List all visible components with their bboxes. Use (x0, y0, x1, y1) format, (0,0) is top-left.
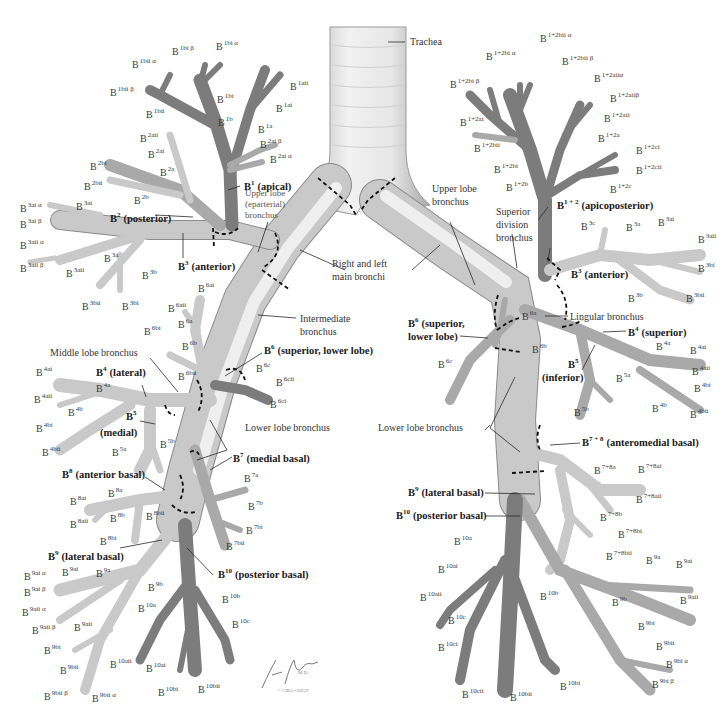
left-basal-branches (440, 450, 690, 690)
right-subsegment-label: B2bii (84, 179, 103, 192)
left-subsegment-label: B1+2bii (474, 141, 500, 154)
right-subsegment-label: B1ai (276, 101, 292, 114)
segment-b3: B3(anterior) (178, 259, 236, 273)
right-subsegment-label: B7b (248, 499, 263, 512)
right-subsegment-label: B2ai (148, 147, 164, 160)
segment-b6-left: B6(superior, (408, 316, 465, 330)
right-subsegment-label: B4aii (34, 392, 52, 405)
right-subsegment-label: B3bii (82, 299, 101, 312)
right-subsegment-label: B8aii (70, 517, 88, 530)
right-subsegment-label: B7bi (246, 523, 263, 536)
left-subsegment-label: B10ci (438, 640, 458, 653)
right-subsegment-label: B8a (108, 486, 123, 499)
left-subsegment-label: B1+2ai (460, 115, 484, 128)
segment-b7: B7(medial basal) (233, 451, 310, 465)
right-subsegment-label: B10a (138, 601, 157, 614)
left-subsegment-label: B3bi (698, 261, 715, 274)
left-subsegment-label: B1+2bii β (562, 54, 594, 67)
right-subsegment-label: B7bii (226, 539, 245, 552)
right-subsegment-label: B3ai β (20, 217, 42, 230)
right-subsegment-label: B3aii β (20, 261, 44, 274)
left-subsegment-label: B6c (438, 357, 452, 370)
left-subsegment-label: B7+8bii (606, 549, 632, 562)
right-subsegment-label: B9bi (44, 643, 61, 656)
left-subsegment-label: B3aii (698, 232, 716, 245)
left-subsegment-label: B7+8aii (636, 492, 662, 505)
intermediate-bronchus-label-1: Intermediate (300, 313, 351, 324)
right-subsegment-label: B2bi (90, 159, 107, 172)
right-subsegment-label: B3ai α (20, 201, 42, 214)
left-subsegment-label: B3a (626, 220, 641, 233)
left-subsegment-label: B9bi α (666, 657, 688, 670)
left-subsegment-label: B1+2aiiα (594, 71, 624, 84)
signature-md: M.D. (298, 670, 309, 675)
intermediate-bronchus-label-2: bronchus (300, 326, 337, 337)
right-upper-lobe-label-3: bronchus (245, 210, 278, 220)
right-subsegment-label: B3aii α (20, 238, 44, 251)
right-subsegment-label: B9bii (60, 663, 79, 676)
right-subsegment-label: B9aii (74, 620, 92, 633)
right-lower-lobe-bronchus-label: Lower lobe bronchus (245, 422, 330, 433)
right-subsegment-label: B1aii (290, 79, 308, 92)
right-subsegment-label: B5a (112, 445, 127, 458)
segment-b6: B6(superior, lower lobe) (264, 343, 373, 357)
superior-division-label-2: division (496, 219, 528, 230)
left-subsegment-label: B1+2bii α (540, 31, 572, 44)
right-subsegment-label: B9bii α (92, 691, 116, 704)
left-subsegment-label: B3b (628, 291, 643, 304)
copyright-text: © CIBA-GEIGY (278, 688, 310, 693)
right-subsegment-label: B1bii α (132, 57, 156, 70)
segment-b10: B10(posterior basal) (218, 567, 309, 581)
left-subsegment-label: B7+8ai (638, 462, 662, 475)
right-subsegment-label: B10bii (198, 682, 220, 695)
right-subsegment-label: B2aii (140, 131, 158, 144)
left-subsegment-label: B9bii (656, 639, 675, 652)
left-upper-lobe-label-1: Upper lobe (432, 183, 477, 194)
trachea-label: Trachea (410, 36, 442, 47)
right-subsegment-label: B9aii α (22, 605, 46, 618)
left-subsegment-label: B7+8a (594, 463, 617, 476)
airway-illustration (30, 27, 700, 690)
segment-b5-left: B5 (568, 357, 579, 370)
right-subsegment-label: B10c (232, 617, 250, 630)
left-subsegment-label: B9b (612, 595, 627, 608)
left-subsegment-label: B10cii (462, 687, 484, 700)
left-subsegment-label: B9aii (680, 593, 698, 606)
left-subsegment-label: B1+2b (506, 180, 529, 193)
right-subsegment-label: B10bi (158, 685, 178, 698)
right-subsegment-label: B2a (160, 165, 175, 178)
left-subsegment-label: B4b (652, 401, 667, 414)
segment-b5-left-name: (inferior) (542, 372, 584, 384)
left-subsegment-label: B4ai (690, 343, 706, 356)
segment-b10-left: B10(posterior basal) (396, 508, 487, 522)
right-subsegment-label: B9b (148, 580, 163, 593)
right-subsegment-label: B6ai (198, 281, 214, 294)
left-subsegment-label: B10aii (420, 590, 442, 603)
left-subsegment-label: B1+2bi (494, 162, 518, 175)
lingular-bronchus-label: Lingular bronchus (570, 311, 644, 322)
segment-b4: B4(lateral) (96, 365, 146, 379)
right-subsegment-label: B1bii β (110, 85, 134, 98)
right-subsegment-label: B1bii (146, 107, 165, 120)
right-subsegment-label: B1bi (217, 92, 234, 105)
main-bronchi-label-2: main bronchi (332, 271, 385, 282)
right-subsegment-label: B9aii β (32, 623, 56, 636)
left-subsegment-label: B1+2aii (604, 111, 630, 124)
right-subsegment-label: B4ai (36, 365, 52, 378)
segment-b8: B8(anterior basal) (62, 467, 146, 481)
left-subsegment-label: B10a (454, 534, 473, 547)
left-subsegment-label: B4bi (694, 381, 711, 394)
right-subsegment-label: B10b (222, 592, 241, 605)
right-subsegment-label: B1bi β (172, 44, 194, 57)
left-subsegment-label: B1+2cii (636, 163, 662, 176)
segment-b7-8: B7 + 8(anteromedial basal) (582, 435, 699, 449)
right-subsegment-label: B4bii (42, 445, 61, 458)
right-subsegment-label: B9ai β (24, 585, 46, 598)
left-subsegment-label: B1+2bi β (450, 77, 480, 90)
left-subsegment-label: B9a (646, 553, 661, 566)
left-subsegment-label: B1+2aiiβ (610, 91, 640, 104)
left-subsegment-label: B4bii (690, 407, 709, 420)
superior-division-label-3: bronchus (496, 232, 533, 243)
right-subsegment-label: B8bi (100, 534, 117, 547)
right-subsegment-label: B8ai (70, 494, 86, 507)
